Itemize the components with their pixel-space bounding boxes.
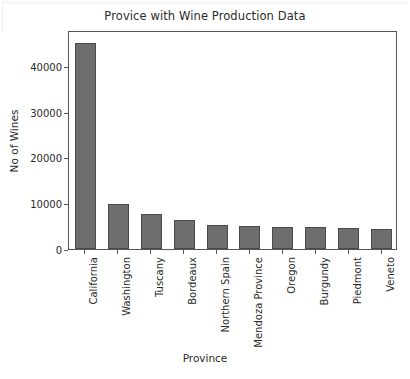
bar: [272, 227, 293, 249]
x-tick-label: Piedmont: [352, 257, 363, 304]
bar: [174, 220, 195, 249]
bar: [338, 228, 359, 249]
x-tick-mark: [183, 250, 184, 254]
x-tick-label: Bordeaux: [187, 257, 198, 305]
y-tick-label: 30000: [8, 107, 62, 118]
y-tick-label: 0: [8, 245, 62, 256]
y-axis: No of Wines 010000200003000040000: [0, 31, 62, 250]
x-tick-label: Burgundy: [319, 257, 330, 305]
x-tick-mark: [315, 250, 316, 254]
x-tick-label: Tuscany: [154, 257, 165, 297]
x-tick-mark: [150, 250, 151, 254]
chart-figure: Provice with Wine Production Data No of …: [0, 0, 410, 379]
bar: [108, 204, 129, 249]
x-tick-label: Veneto: [385, 257, 396, 292]
x-axis-label: Province: [0, 352, 410, 364]
x-tick-label: Mendoza Province: [253, 257, 264, 348]
bar: [239, 226, 260, 249]
y-tick-label: 10000: [8, 199, 62, 210]
x-tick-label: Oregon: [286, 257, 297, 294]
scan-artifact: [3, 1, 407, 6]
x-axis-ticks: [68, 250, 397, 256]
bar: [305, 227, 326, 249]
y-tick-label: 20000: [8, 153, 62, 164]
x-tick-mark: [282, 250, 283, 254]
x-tick-label: Northern Spain: [220, 257, 231, 333]
chart-title: Provice with Wine Production Data: [0, 9, 410, 23]
x-tick-mark: [117, 250, 118, 254]
x-tick-mark: [381, 250, 382, 254]
y-tick-label: 40000: [8, 61, 62, 72]
bar: [371, 229, 392, 249]
x-tick-mark: [249, 250, 250, 254]
bar: [141, 214, 162, 249]
x-axis-tick-labels: CaliforniaWashingtonTuscanyBordeauxNorth…: [68, 257, 397, 352]
plot-area: [68, 31, 397, 250]
bar: [75, 43, 96, 249]
x-tick-mark: [216, 250, 217, 254]
bar-series: [69, 32, 396, 249]
x-tick-label: Washington: [121, 257, 132, 316]
bar: [207, 225, 228, 249]
x-tick-mark: [348, 250, 349, 254]
x-tick-mark: [84, 250, 85, 254]
x-tick-label: California: [88, 257, 99, 305]
